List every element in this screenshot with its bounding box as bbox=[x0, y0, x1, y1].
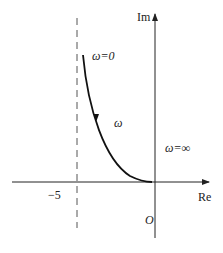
omega-infinity-label: ω=∞ bbox=[165, 141, 191, 155]
omega-label: ω bbox=[114, 116, 122, 130]
real-axis-label: Re bbox=[198, 190, 211, 204]
nyquist-diagram: Im Re O −5 ω=0 ω ω=∞ bbox=[0, 0, 223, 253]
imag-axis-label: Im bbox=[137, 10, 151, 24]
omega-zero-label: ω=0 bbox=[92, 49, 115, 63]
origin-label: O bbox=[145, 213, 154, 227]
asymptote-value-label: −5 bbox=[48, 188, 61, 202]
